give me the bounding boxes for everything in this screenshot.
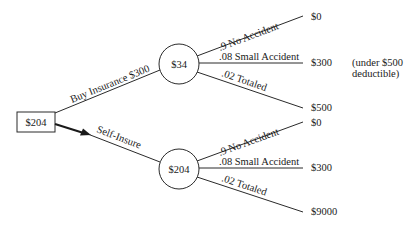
branch-line-buy-insurance xyxy=(55,70,160,113)
decision-node-value: $204 xyxy=(26,117,48,128)
outcome-label-totaled-2: .02 Totaled xyxy=(220,172,269,197)
payoff-small-accident: $300 xyxy=(311,57,332,68)
chosen-path-line xyxy=(55,124,82,133)
decision-node: $204 xyxy=(17,112,55,132)
payoff-small-accident-2: $300 xyxy=(311,162,332,173)
branch-buy-insurance: Buy Insurance $300 xyxy=(55,63,160,113)
outcome-label-small-accident: .08 Small Accident xyxy=(219,51,299,62)
outcome-label-no-accident-2: .9 No Accident xyxy=(217,126,280,158)
decision-tree-diagram: $204 Buy Insurance $300 Self-Insure $34 … xyxy=(0,0,416,235)
outcomes-insurance: .9 No Accident $0 .08 Small Accident $30… xyxy=(197,11,403,113)
outcome-label-no-accident: .9 No Accident xyxy=(217,20,280,53)
outcome-label-totaled: .02 Totaled xyxy=(220,67,269,93)
branch-label-buy-insurance: Buy Insurance $300 xyxy=(69,63,151,105)
chance-node-value-insurance: $34 xyxy=(171,59,188,70)
chance-node-value-self-insure: $204 xyxy=(169,164,191,175)
payoff-no-accident: $0 xyxy=(311,11,322,22)
outcome-label-small-accident-2: .08 Small Accident xyxy=(219,156,299,167)
outcomes-self-insure: .9 No Accident $0 .08 Small Accident $30… xyxy=(197,117,337,217)
payoff-totaled-2: $9000 xyxy=(311,206,337,217)
branch-self-insure: Self-Insure xyxy=(55,124,160,162)
chance-node-insurance: $34 xyxy=(159,44,199,84)
payoff-totaled: $500 xyxy=(311,102,332,113)
deductible-note-line2: deductible) xyxy=(352,68,400,80)
chance-node-self-insure: $204 xyxy=(159,149,199,189)
payoff-no-accident-2: $0 xyxy=(311,117,322,128)
